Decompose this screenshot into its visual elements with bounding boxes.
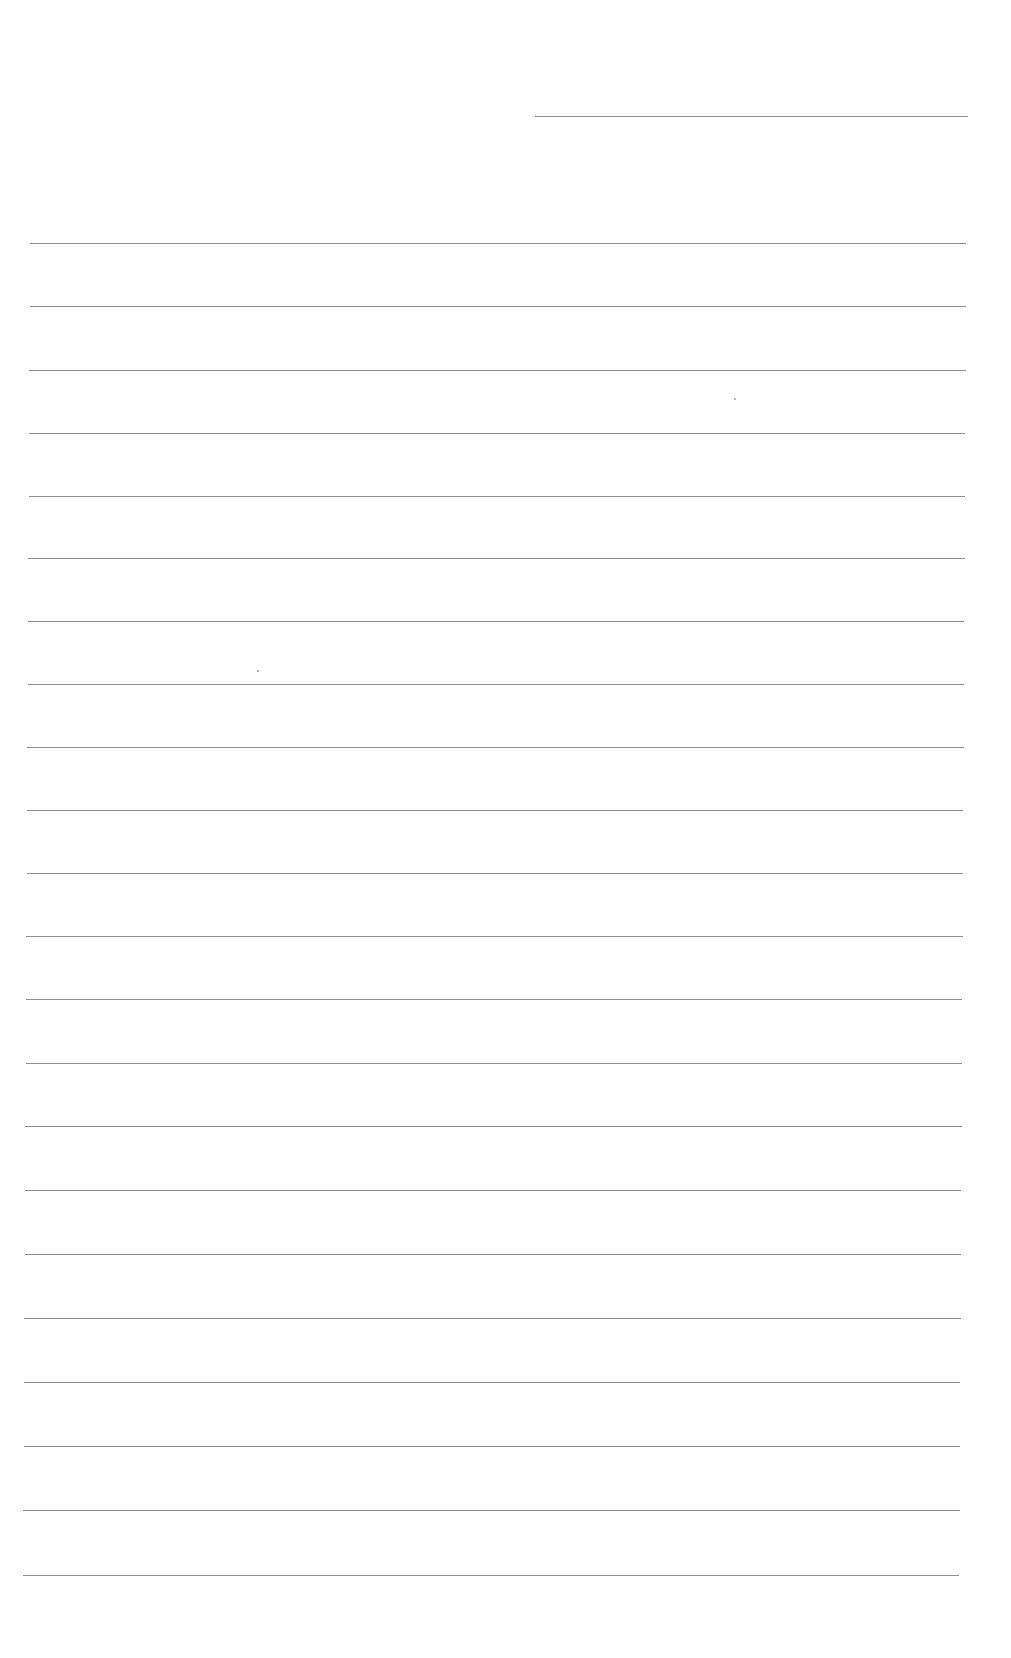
ruled-line: [27, 873, 963, 874]
ruled-line: [29, 433, 965, 434]
ruled-line: [25, 1190, 961, 1191]
ruled-line: [29, 370, 966, 371]
ruled-paper-page: [0, 0, 1011, 1658]
ruled-line: [27, 810, 963, 811]
ruled-line: [28, 558, 965, 559]
ruled-line: [23, 1575, 959, 1576]
ruled-line: [24, 1446, 960, 1447]
ruled-line: [28, 684, 964, 685]
ruled-line: [28, 621, 964, 622]
ruled-line: [25, 1254, 961, 1255]
ruled-line: [24, 1382, 960, 1383]
header-rule-line: [535, 116, 968, 117]
ruled-line: [26, 1063, 962, 1064]
ruled-line: [24, 1318, 961, 1319]
paper-speck: [257, 670, 259, 672]
ruled-line: [25, 1126, 962, 1127]
ruled-line: [26, 999, 962, 1000]
ruled-line: [30, 306, 966, 307]
ruled-line: [26, 936, 963, 937]
paper-speck: [734, 398, 736, 400]
ruled-line: [29, 496, 965, 497]
ruled-line: [27, 747, 964, 748]
ruled-line: [23, 1510, 960, 1511]
ruled-line: [30, 243, 966, 244]
